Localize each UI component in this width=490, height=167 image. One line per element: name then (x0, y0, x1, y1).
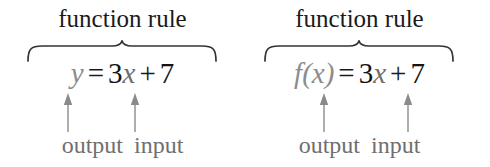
constant-term: 7 (410, 57, 425, 89)
equation-function-notation: f(x)=3x+7 (237, 56, 482, 90)
input-arrow-icon (401, 92, 415, 132)
callout-legend: outputinput (237, 130, 482, 160)
equation-input-term: x (373, 57, 386, 89)
diagram-y-notation: function rule y=3x+7 outputinput (0, 0, 245, 167)
function-rule-heading: function rule (237, 4, 482, 34)
constant-term: 7 (160, 57, 175, 89)
plus-sign: + (386, 57, 410, 89)
input-callout-label: input (134, 132, 183, 158)
diagram-function-notation: function rule f(x)=3x+7 outputinput (237, 0, 482, 167)
input-callout-label: input (371, 132, 420, 158)
equation-output-term: f(x) (294, 57, 336, 89)
equals-sign: = (336, 57, 358, 89)
equation-output-term: y (71, 57, 86, 89)
function-rule-heading: function rule (0, 4, 245, 34)
output-arrow-icon (61, 92, 75, 132)
output-callout-label: output (62, 132, 123, 158)
equation-input-term: x (123, 57, 136, 89)
coefficient-term: 3 (359, 57, 374, 89)
output-arrow-icon (317, 92, 331, 132)
output-callout-label: output (299, 132, 360, 158)
coefficient-term: 3 (108, 57, 123, 89)
equation-y-notation: y=3x+7 (0, 56, 245, 90)
input-arrow-icon (128, 92, 142, 132)
function-rule-figure: function rule y=3x+7 outputinput (0, 0, 490, 167)
plus-sign: + (135, 57, 159, 89)
equals-sign: = (86, 57, 108, 89)
callout-legend: outputinput (0, 130, 245, 160)
